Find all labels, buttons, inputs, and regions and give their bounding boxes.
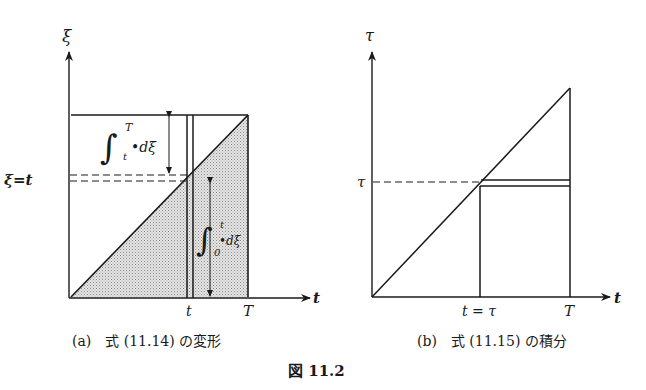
tick-label-t: t [186, 303, 192, 319]
integral-upper-limit: T [125, 121, 134, 134]
integral-lower-limit: 0 [214, 247, 221, 258]
integrand: •dξ [131, 139, 157, 155]
tau-axis-label: τ [365, 26, 375, 45]
t-axis-label: t [614, 289, 621, 307]
tau-level-label: τ [357, 173, 366, 191]
upper-integral: ∫ T t •dξ [100, 121, 157, 167]
panel-b: τ τ t t = τ T (b) 式 (11.15) の積分 [357, 26, 621, 349]
panel-a-caption: (a) 式 (11.14) の変形 [72, 333, 221, 349]
integral-sign: ∫ [100, 127, 118, 167]
panel-a: ξ ξ=t t t T ∫ T t •dξ ∫ t 0 •dξ (a) 式 (1… [4, 26, 320, 349]
xi-equals-t-label: ξ=t [4, 171, 32, 189]
figure-canvas: ξ ξ=t t t T ∫ T t •dξ ∫ t 0 •dξ (a) 式 (1… [0, 0, 646, 390]
integrand: •dξ [219, 234, 242, 248]
tick-label-t-equals-tau: t = τ [462, 303, 496, 319]
panel-b-caption: (b) 式 (11.15) の積分 [417, 333, 567, 349]
integral-sign: ∫ [196, 221, 213, 259]
xi-axis-label: ξ [62, 26, 73, 46]
integral-lower-limit: t [123, 151, 128, 162]
diagonal-line [372, 88, 570, 297]
tick-label-T: T [243, 302, 254, 320]
tick-label-T: T [564, 302, 575, 320]
figure-caption: 図 11.2 [288, 362, 345, 380]
t-axis-label: t [313, 289, 320, 307]
